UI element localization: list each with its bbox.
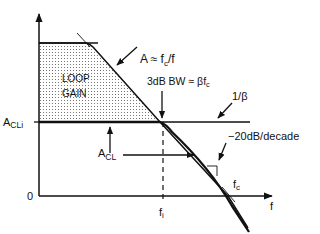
inverse-beta-label: 1/β xyxy=(232,90,248,102)
open-loop-gain-label: A ≈ fc/f xyxy=(140,52,175,68)
inv-beta-arrow xyxy=(218,103,232,118)
open-loop-arrow xyxy=(117,47,137,65)
acl-label: ACL xyxy=(98,147,116,162)
closed-loop-gain-curve xyxy=(39,122,249,232)
f-axis-label: f xyxy=(270,200,274,212)
bode-plot-diagram: A ≈ fc/f LOOP GAIN 3dB BW ≈ βfc 1/β ACLi… xyxy=(0,0,320,234)
bandwidth-label: 3dB BW ≈ βfc xyxy=(147,75,210,89)
origin-zero-label: 0 xyxy=(27,190,33,202)
fi-label: fi xyxy=(159,206,164,220)
acli-label: ACLi xyxy=(3,116,23,130)
rolloff-label: −20dB/decade xyxy=(228,130,299,142)
loop-gain-label-line1: LOOP xyxy=(62,73,90,84)
rolloff-arrow xyxy=(219,143,226,160)
loop-gain-label-line2: GAIN xyxy=(62,88,86,99)
fc-label: fc xyxy=(233,178,240,192)
